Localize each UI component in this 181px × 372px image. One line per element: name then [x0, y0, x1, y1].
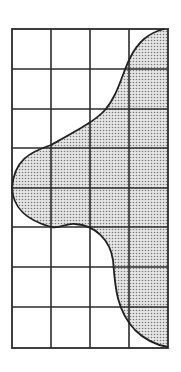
shaded-grid-figure	[0, 0, 181, 372]
